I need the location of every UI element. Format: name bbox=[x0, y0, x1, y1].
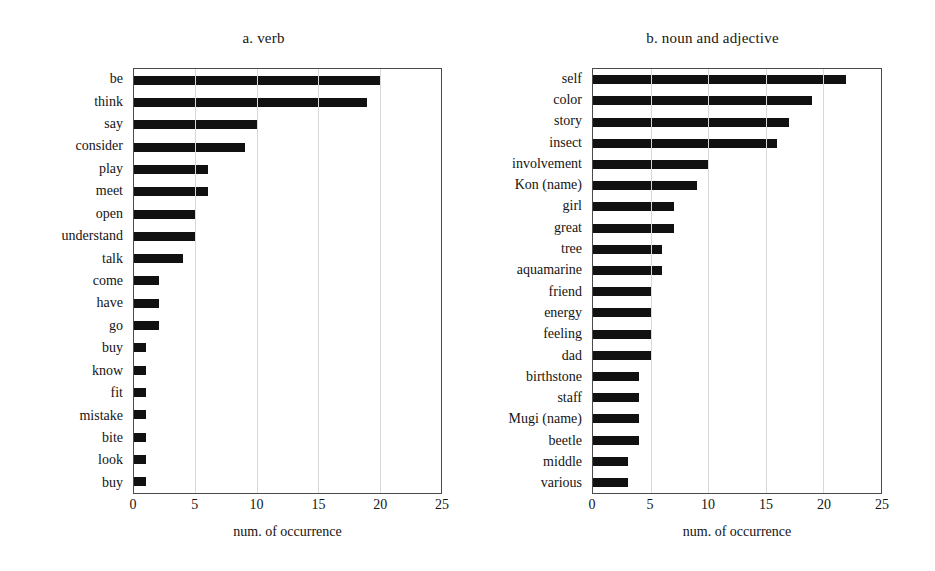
bar-row bbox=[134, 381, 441, 403]
bar-row bbox=[593, 408, 881, 429]
x-axis-tick-label: 15 bbox=[311, 497, 325, 513]
bar-row bbox=[593, 111, 881, 132]
y-axis-label: play bbox=[0, 158, 128, 180]
y-axis-label: say bbox=[0, 113, 128, 135]
y-axis-label: great bbox=[467, 217, 587, 238]
y-axis-label: tree bbox=[467, 238, 587, 259]
chart-title-noun-adjective: b. noun and adjective bbox=[467, 30, 935, 47]
gridline-noun-25 bbox=[881, 69, 882, 493]
bar-verb-10 bbox=[134, 299, 159, 308]
bar-noun-3 bbox=[593, 139, 777, 148]
bar-row bbox=[593, 302, 881, 323]
y-axis-label: staff bbox=[467, 387, 587, 408]
bar-row bbox=[593, 69, 881, 90]
bar-row bbox=[134, 359, 441, 381]
x-axis-tick-label: 25 bbox=[875, 497, 889, 513]
bar-row bbox=[134, 471, 441, 493]
chart-title-verb: a. verb bbox=[0, 30, 497, 47]
y-axis-label: buy bbox=[0, 472, 128, 494]
x-axis-tick-label: 0 bbox=[130, 497, 137, 513]
x-axis-ticks-verb: 0510152025 bbox=[133, 495, 442, 519]
bar-noun-18 bbox=[593, 457, 628, 466]
bar-row bbox=[134, 426, 441, 448]
gridline-verb-10 bbox=[257, 69, 258, 493]
panel-noun-adjective-chart: b. noun and adjective selfcolorstoryinse… bbox=[467, 0, 934, 571]
bar-row bbox=[134, 270, 441, 292]
y-axis-label: Mugi (name) bbox=[467, 409, 587, 430]
bar-row bbox=[593, 154, 881, 175]
bar-noun-8 bbox=[593, 245, 662, 254]
bar-row bbox=[593, 90, 881, 111]
y-axis-label: look bbox=[0, 449, 128, 471]
y-axis-label: friend bbox=[467, 281, 587, 302]
bar-verb-16 bbox=[134, 433, 146, 442]
y-axis-label: go bbox=[0, 315, 128, 337]
y-axis-label: know bbox=[0, 359, 128, 381]
y-axis-label: aquamarine bbox=[467, 260, 587, 281]
gridline-noun-10 bbox=[708, 69, 709, 493]
bar-verb-5 bbox=[134, 187, 208, 196]
bar-noun-17 bbox=[593, 436, 639, 445]
bar-row bbox=[593, 472, 881, 493]
bar-row bbox=[593, 217, 881, 238]
bar-noun-10 bbox=[593, 287, 651, 296]
y-axis-label: mistake bbox=[0, 404, 128, 426]
y-axis-label: bite bbox=[0, 427, 128, 449]
bar-row bbox=[593, 323, 881, 344]
y-axis-label: feeling bbox=[467, 324, 587, 345]
bar-row bbox=[134, 114, 441, 136]
bar-noun-13 bbox=[593, 351, 651, 360]
bar-noun-15 bbox=[593, 393, 639, 402]
bar-verb-15 bbox=[134, 410, 146, 419]
bar-row bbox=[593, 429, 881, 450]
bar-row bbox=[593, 366, 881, 387]
gridline-noun-20 bbox=[823, 69, 824, 493]
y-axis-label: beetle bbox=[467, 430, 587, 451]
y-axis-label: self bbox=[467, 68, 587, 89]
bar-verb-3 bbox=[134, 143, 245, 152]
bar-noun-1 bbox=[593, 96, 812, 105]
y-axis-label: talk bbox=[0, 247, 128, 269]
bar-row bbox=[134, 158, 441, 180]
y-axis-label: come bbox=[0, 270, 128, 292]
x-axis-tick-label: 0 bbox=[589, 497, 596, 513]
bar-noun-16 bbox=[593, 414, 639, 423]
y-axis-label: involvement bbox=[467, 153, 587, 174]
x-axis-tick-label: 20 bbox=[373, 497, 387, 513]
bar-row bbox=[134, 448, 441, 470]
bar-noun-7 bbox=[593, 224, 674, 233]
bar-verb-14 bbox=[134, 388, 146, 397]
bar-row bbox=[593, 345, 881, 366]
bar-verb-1 bbox=[134, 98, 367, 107]
bar-verb-18 bbox=[134, 477, 146, 486]
y-axis-label: buy bbox=[0, 337, 128, 359]
x-axis-tick-label: 10 bbox=[250, 497, 264, 513]
panel-verb-chart: a. verb bethinksayconsiderplaymeetopenun… bbox=[0, 0, 467, 571]
bars-container-noun-adjective bbox=[593, 69, 881, 493]
bar-noun-19 bbox=[593, 478, 628, 487]
x-axis-title-noun-adjective: num. of occurrence bbox=[592, 524, 882, 540]
y-axis-label: story bbox=[467, 111, 587, 132]
bar-row bbox=[134, 337, 441, 359]
y-axis-label: have bbox=[0, 292, 128, 314]
bar-verb-9 bbox=[134, 276, 159, 285]
bar-row bbox=[593, 260, 881, 281]
y-axis-label: various bbox=[467, 473, 587, 494]
y-axis-label: think bbox=[0, 90, 128, 112]
x-axis-tick-label: 15 bbox=[759, 497, 773, 513]
y-axis-label: middle bbox=[467, 451, 587, 472]
gridline-verb-15 bbox=[318, 69, 319, 493]
bar-row bbox=[593, 175, 881, 196]
x-axis-title-verb: num. of occurrence bbox=[133, 524, 442, 540]
y-axis-label: girl bbox=[467, 196, 587, 217]
bar-row bbox=[134, 181, 441, 203]
gridline-verb-5 bbox=[195, 69, 196, 493]
bar-verb-6 bbox=[134, 210, 195, 219]
gridline-verb-25 bbox=[441, 69, 442, 493]
bar-row bbox=[593, 239, 881, 260]
y-axis-label: fit bbox=[0, 382, 128, 404]
bars-container-verb bbox=[134, 69, 441, 493]
bar-verb-13 bbox=[134, 366, 146, 375]
y-axis-labels-verb: bethinksayconsiderplaymeetopenunderstand… bbox=[0, 68, 128, 494]
y-axis-label: insect bbox=[467, 132, 587, 153]
